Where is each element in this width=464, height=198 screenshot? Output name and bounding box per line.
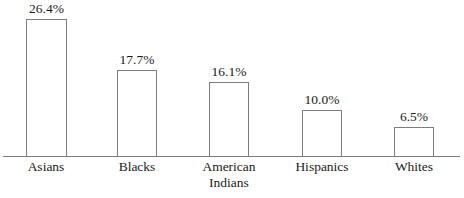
bar-group-1: 26.4%: [26, 19, 67, 157]
bar-rect-3: [209, 82, 249, 157]
category-label-whites: Whites: [395, 159, 433, 175]
bar-value-label-1: 26.4%: [29, 2, 64, 16]
category-label-american-indians-line2: Indians: [202, 175, 255, 191]
category-label-whites-line1: Whites: [395, 159, 433, 174]
bar-rect-5: [394, 127, 434, 157]
bar-value-label-4: 10.0%: [305, 93, 340, 107]
category-label-asians: Asians: [28, 159, 65, 175]
bar-group-2: 17.7%: [117, 70, 157, 157]
bar-rect-4: [302, 110, 342, 157]
category-label-blacks-line1: Blacks: [119, 159, 156, 174]
category-label-american-indians: American Indians: [202, 159, 255, 191]
bar-rect-1: [26, 19, 67, 157]
category-axis-labels: Asians Blacks American Indians Hispanics…: [0, 159, 464, 198]
bar-group-4: 10.0%: [302, 110, 342, 157]
bar-group-5: 6.5%: [394, 127, 434, 157]
plot-area: 26.4% 17.7% 16.1% 10.0% 6.5%: [0, 0, 464, 157]
category-label-hispanics-line1: Hispanics: [295, 159, 348, 174]
category-label-hispanics: Hispanics: [295, 159, 348, 175]
bar-value-label-3: 16.1%: [212, 65, 247, 79]
bar-group-3: 16.1%: [209, 82, 249, 157]
bar-chart: 26.4% 17.7% 16.1% 10.0% 6.5% Asians Blac…: [0, 0, 464, 198]
category-label-asians-line1: Asians: [28, 159, 65, 174]
bar-value-label-5: 6.5%: [400, 110, 428, 124]
x-axis-line: [3, 156, 460, 157]
category-label-blacks: Blacks: [119, 159, 156, 175]
category-label-american-indians-line1: American: [202, 159, 255, 174]
bar-rect-2: [117, 70, 157, 157]
bar-value-label-2: 17.7%: [120, 53, 155, 67]
